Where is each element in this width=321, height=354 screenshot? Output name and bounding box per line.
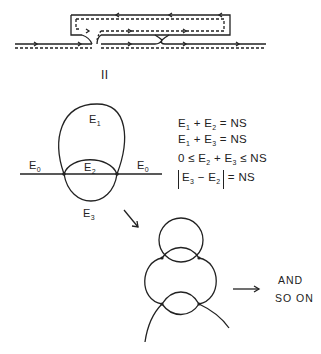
node — [160, 302, 163, 305]
absolute-value: E3 − E2 — [178, 170, 224, 189]
bottom-figure — [145, 218, 229, 342]
label-e2: E2 — [84, 161, 96, 175]
diagram-canvas — [0, 0, 321, 354]
arrow-down-right — [124, 210, 138, 227]
node — [160, 256, 163, 259]
node — [62, 172, 66, 176]
top-figure — [15, 13, 266, 48]
node — [197, 302, 200, 305]
caption-and: AND — [278, 274, 303, 286]
equation-2: E1 + E3 = NS — [178, 133, 247, 147]
label-e0-right: E0 — [137, 159, 149, 173]
node — [197, 256, 200, 259]
equation-4: E3 − E2 = NS — [178, 170, 255, 189]
node — [115, 172, 119, 176]
equation-3: 0 ≤ E2 + E3 ≤ NS — [178, 152, 267, 166]
label-ii: II — [101, 68, 109, 82]
label-e1: E1 — [89, 113, 101, 127]
caption-so-on: SO ON — [275, 292, 314, 304]
label-e0-left: E0 — [29, 159, 41, 173]
equation-1: E1 + E2 = NS — [178, 117, 247, 131]
label-e3: E3 — [83, 207, 95, 221]
